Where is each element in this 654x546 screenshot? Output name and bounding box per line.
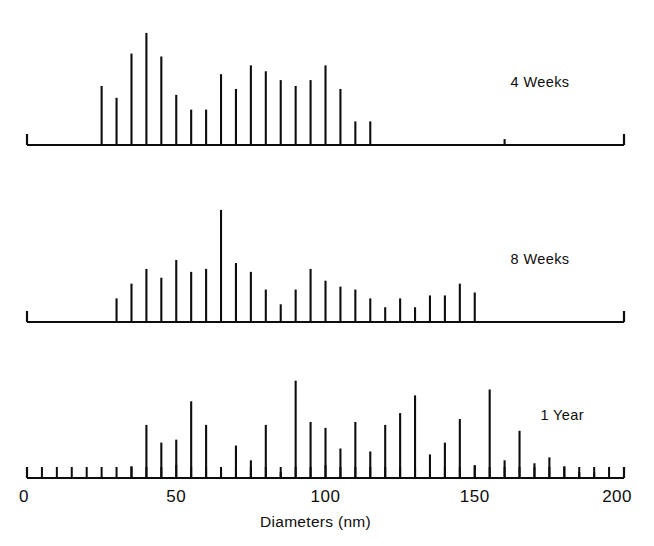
x-tick-label: 100 <box>311 487 341 506</box>
panel-label-2: 8 Weeks <box>511 251 570 267</box>
x-axis: 050100150200Diameters (nm) <box>19 465 632 530</box>
panel-label-1: 4 Weeks <box>511 74 570 90</box>
x-axis-title: Diameters (nm) <box>260 513 371 530</box>
figure-container: 4 Weeks8 Weeks1 Year050100150200Diameter… <box>0 0 654 546</box>
x-tick-label: 150 <box>460 487 490 506</box>
x-tick-label: 0 <box>19 487 29 506</box>
panel-2: 8 Weeks <box>27 210 624 322</box>
x-tick-label: 200 <box>602 487 632 506</box>
x-tick-label: 50 <box>166 487 186 506</box>
panel-3: 1 Year <box>27 381 624 478</box>
panel-1: 4 Weeks <box>27 33 624 145</box>
histogram-plot: 4 Weeks8 Weeks1 Year050100150200Diameter… <box>0 0 654 546</box>
panel-label-3: 1 Year <box>540 407 584 423</box>
